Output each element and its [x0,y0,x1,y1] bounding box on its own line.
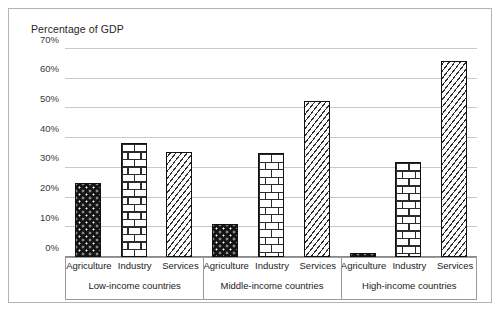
group-separator [341,258,342,299]
y-axis-tick-label: 70% [40,33,59,44]
y-axis-tick-label: 30% [40,152,59,163]
group-axis-label: Middle-income countries [203,280,340,291]
category-axis-label: Agriculture [66,260,112,271]
group-axis-label: Low-income countries [66,280,203,291]
category-axis-label: Agriculture [341,260,387,271]
bar [304,101,330,257]
y-axis-tick-label: 40% [40,122,59,133]
bar [258,153,284,257]
category-axis-label: Services [432,260,478,271]
category-axis-label: Industry [249,260,295,271]
category-axis-box: AgricultureIndustryServicesLow-income co… [65,257,477,300]
plot-area: 0%10%20%30%40%50%60%70% [65,49,477,257]
group-separator [203,258,204,299]
category-axis-label: Agriculture [203,260,249,271]
y-axis-tick-label: 60% [40,63,59,74]
category-axis-label: Services [295,260,341,271]
gridline [65,78,477,79]
brick-pattern [122,144,146,256]
y-axis-tick-label: 50% [40,92,59,103]
brick-pattern [259,154,283,256]
bar [212,224,238,257]
y-axis-tick-label: 20% [40,182,59,193]
y-axis-tick-label: 10% [40,211,59,222]
category-axis-label: Industry [386,260,432,271]
gridline [65,48,477,49]
chart-frame: Percentage of GDP 0%10%20%30%40%50%60%70… [8,8,492,303]
gridline [65,107,477,108]
bar [441,61,467,257]
y-axis-tick-label: 0% [45,241,59,252]
bar [121,143,147,257]
gridline [65,137,477,138]
bar [166,152,192,257]
category-axis-label: Industry [112,260,158,271]
category-axis-label: Services [158,260,204,271]
group-axis-label: High-income countries [341,280,478,291]
bar [395,162,421,257]
bar [75,183,101,257]
brick-pattern [396,163,420,256]
